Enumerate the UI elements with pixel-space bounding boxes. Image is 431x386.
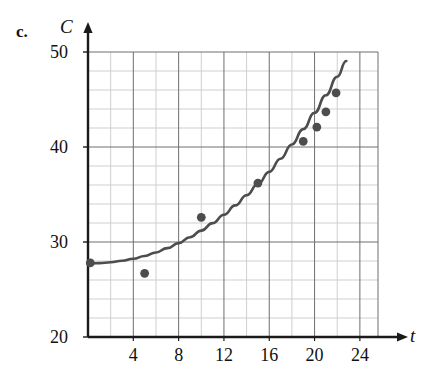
chart-figure: c. C t 20304050 4812162024 (0, 0, 431, 386)
x-tick-label: 20 (295, 346, 335, 364)
x-tick-label-group: 4812162024 (0, 0, 431, 386)
x-tick-label: 12 (204, 346, 244, 364)
x-tick-label: 4 (113, 346, 153, 364)
x-tick-label: 16 (249, 346, 289, 364)
x-tick-label: 24 (340, 346, 380, 364)
x-tick-label: 8 (159, 346, 199, 364)
